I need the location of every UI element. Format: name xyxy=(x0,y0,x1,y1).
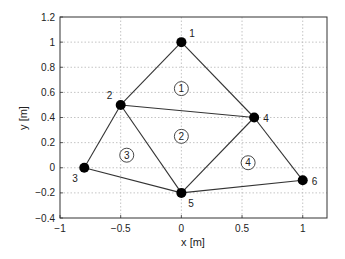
y-tick-label: 0 xyxy=(49,162,55,173)
mesh-edge xyxy=(121,105,255,118)
mesh-edge xyxy=(121,42,182,105)
mesh-node xyxy=(298,175,308,185)
node-label: 1 xyxy=(189,28,195,39)
x-tick-label: 0.5 xyxy=(235,223,249,234)
mesh-node xyxy=(116,100,126,110)
node-label: 5 xyxy=(188,198,194,209)
y-tick-label: 1.2 xyxy=(41,12,55,23)
grid-lines xyxy=(60,17,327,218)
mesh-node xyxy=(176,188,186,198)
x-tick-label: 1 xyxy=(300,223,306,234)
element-label: 2 xyxy=(179,131,185,142)
x-tick-label: −0.5 xyxy=(111,223,131,234)
element-label: 4 xyxy=(245,157,251,168)
y-tick-label: 0.2 xyxy=(41,137,55,148)
x-axis-label: x [m] xyxy=(181,236,205,248)
node-label: 6 xyxy=(312,176,318,187)
node-label: 3 xyxy=(72,173,78,184)
y-tick-label: −0.4 xyxy=(35,213,55,224)
x-tick-label: 0 xyxy=(179,223,185,234)
mesh-edge xyxy=(181,42,254,117)
mesh-edge xyxy=(181,118,254,193)
mesh-node xyxy=(79,163,89,173)
mesh-node xyxy=(176,37,186,47)
element-label: 1 xyxy=(179,83,185,94)
node-label: 4 xyxy=(263,113,269,124)
element-labels: 1234 xyxy=(120,82,255,170)
y-tick-label: 0.8 xyxy=(41,62,55,73)
mesh-edge xyxy=(84,105,120,168)
mesh-edge xyxy=(254,118,303,181)
mesh-nodes: 123456 xyxy=(72,28,317,209)
y-tick-label: 0.6 xyxy=(41,87,55,98)
y-axis-label: y [m] xyxy=(17,106,29,130)
element-label: 3 xyxy=(124,150,130,161)
node-label: 2 xyxy=(107,90,113,101)
mesh-plot: −1−0.500.51−0.4−0.200.20.40.60.811.2 123… xyxy=(0,0,345,259)
y-tick-label: 0.4 xyxy=(41,112,55,123)
x-tick-label: −1 xyxy=(54,223,66,234)
mesh-node xyxy=(249,113,259,123)
y-tick-label: 1 xyxy=(49,37,55,48)
y-tick-label: −0.2 xyxy=(35,187,55,198)
